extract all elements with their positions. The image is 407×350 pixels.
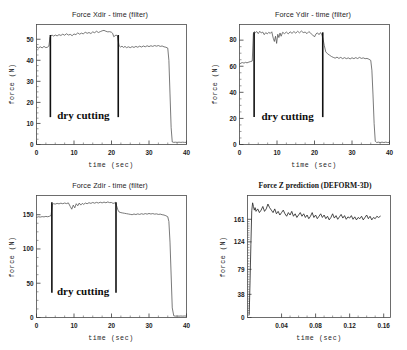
y-tick-label: 30: [26, 78, 34, 85]
y-tick-label: 20: [229, 115, 237, 122]
chart-force-xdir-svg: Force Xdir - time (filter) 0102030400102…: [0, 0, 203, 175]
y-tick-label: 0: [241, 314, 245, 321]
series-line: [37, 30, 187, 142]
y-tick-label: 60: [229, 63, 237, 70]
y-axis-label: force (N): [9, 236, 16, 277]
y-tick-label: 0: [233, 141, 237, 148]
chart-title: Force Ydir - time (filter): [275, 10, 351, 19]
chart-force-zdir-svg: Force Zdir - time (filter) 0102030400501…: [0, 173, 203, 350]
annotations: dry cutting: [254, 32, 323, 121]
y-tick-label: 0: [30, 314, 34, 321]
x-tick-label: 20: [108, 322, 116, 329]
x-tick-label: 10: [70, 322, 78, 329]
x-tick-label: 30: [145, 149, 153, 156]
x-tick-label: 40: [386, 149, 394, 156]
annotations: dry cutting: [52, 202, 116, 297]
x-tick-label: 20: [311, 149, 319, 156]
chart-title: Force Xdir - time (filter): [72, 10, 148, 19]
chart-force-z-prediction-svg: Force Z prediction (DEFORM-3D) 0.040.080…: [203, 173, 406, 350]
annotations: dry cutting: [50, 35, 118, 121]
plot-frame: [37, 25, 187, 145]
series-line: [37, 202, 187, 316]
series-line: [240, 31, 390, 143]
data-series: [37, 30, 187, 142]
y-tick-label: 79: [237, 266, 245, 273]
chart-title: Force Z prediction (DEFORM-3D): [259, 181, 372, 190]
plot-frame: [37, 196, 187, 318]
axis-ticks: 0.040.080.120.1603879124161: [234, 216, 391, 329]
y-tick-label: 40: [26, 57, 34, 64]
x-axis-label: time (sec): [296, 335, 342, 342]
x-tick-label: 0.12: [343, 322, 356, 329]
y-tick-label: 100: [23, 245, 34, 252]
chart-force-ydir-svg: Force Ydir - time (filter) 0102030400204…: [203, 0, 406, 175]
data-series: [37, 202, 187, 316]
y-axis-label: force (N): [220, 236, 227, 277]
y-tick-label: 0: [30, 141, 34, 148]
chart-force-xdir: Force Xdir - time (filter) 0102030400102…: [0, 0, 203, 175]
y-tick-label: 80: [229, 36, 237, 43]
dry-cutting-annotation: dry cutting: [57, 285, 110, 297]
figure-root: Force Xdir - time (filter) 0102030400102…: [0, 0, 407, 350]
y-axis-label: force (N): [212, 63, 219, 104]
dry-cutting-annotation: dry cutting: [57, 109, 110, 121]
axis-ticks: 010203040050100150: [23, 211, 191, 329]
x-tick-label: 0.08: [309, 322, 322, 329]
y-tick-label: 40: [229, 89, 237, 96]
x-tick-label: 0.04: [275, 322, 288, 329]
x-axis-label: time (sec): [291, 162, 337, 169]
x-tick-label: 10: [273, 149, 281, 156]
y-tick-label: 150: [23, 211, 34, 218]
y-tick-label: 10: [26, 120, 34, 127]
y-tick-label: 124: [234, 238, 245, 245]
x-axis-label: time (sec): [88, 335, 134, 342]
x-axis-label: time (sec): [88, 162, 134, 169]
y-tick-label: 20: [26, 99, 34, 106]
x-tick-label: 0: [35, 149, 39, 156]
x-tick-label: 10: [70, 149, 78, 156]
x-tick-label: 0: [238, 149, 242, 156]
x-tick-label: 40: [183, 322, 191, 329]
x-tick-label: 30: [348, 149, 356, 156]
x-tick-label: 0.16: [377, 322, 390, 329]
series-line: [249, 203, 380, 315]
x-tick-label: 0: [35, 322, 39, 329]
x-tick-label: 20: [108, 149, 116, 156]
chart-force-z-prediction: Force Z prediction (DEFORM-3D) 0.040.080…: [203, 173, 406, 348]
plot-frame: [248, 196, 391, 318]
y-axis-label: force (N): [9, 63, 16, 104]
x-tick-label: 30: [145, 322, 153, 329]
chart-force-zdir: Force Zdir - time (filter) 0102030400501…: [0, 173, 203, 348]
chart-force-ydir: Force Ydir - time (filter) 0102030400204…: [203, 0, 406, 175]
x-tick-label: 40: [183, 149, 191, 156]
data-series: [240, 31, 390, 143]
chart-title: Force Zdir - time (filter): [72, 181, 148, 190]
dry-cutting-annotation: dry cutting: [261, 110, 314, 122]
plot-frame: [240, 25, 390, 145]
y-tick-label: 50: [26, 280, 34, 287]
y-tick-label: 38: [237, 291, 245, 298]
data-series: [249, 203, 380, 315]
y-tick-label: 161: [234, 216, 245, 223]
y-tick-label: 50: [26, 36, 34, 43]
